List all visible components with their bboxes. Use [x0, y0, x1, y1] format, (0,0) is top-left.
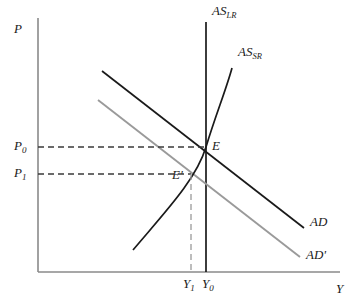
- y1-label: Y1: [183, 277, 195, 290]
- p0-label-base: P: [14, 138, 22, 153]
- p1-label-sub: 1: [22, 172, 27, 182]
- y0-label-sub: 0: [209, 283, 214, 293]
- p1-label: P1: [14, 166, 26, 179]
- p1-label-base: P: [14, 165, 22, 180]
- equilibrium-e-label: E: [212, 139, 220, 152]
- y-axis-label: P: [14, 22, 22, 35]
- ad-as-diagram: P Y ASLR ASSR AD AD' P0 P1 Y1 Y0 E E': [0, 0, 358, 306]
- as-sr-label: ASSR: [238, 45, 262, 58]
- as-sr-label-sub: SR: [252, 51, 261, 61]
- ad-label: AD: [310, 215, 327, 228]
- as-sr-label-base: AS: [238, 44, 252, 59]
- p0-label-sub: 0: [22, 145, 27, 155]
- y0-label: Y0: [202, 277, 214, 290]
- equilibrium-e-prime-label: E': [172, 168, 183, 181]
- ad-prime-curve: [98, 100, 300, 257]
- p0-label: P0: [14, 139, 26, 152]
- diagram-canvas: [0, 0, 358, 306]
- as-lr-label-base: AS: [212, 3, 226, 18]
- ad-prime-label: AD': [306, 248, 326, 261]
- as-lr-label-sub: LR: [226, 10, 236, 20]
- as-sr-curve: [133, 68, 232, 250]
- x-axis-label: Y: [336, 282, 343, 295]
- y1-label-sub: 1: [190, 283, 195, 293]
- ad-curve: [102, 71, 304, 228]
- as-lr-label: ASLR: [212, 4, 236, 17]
